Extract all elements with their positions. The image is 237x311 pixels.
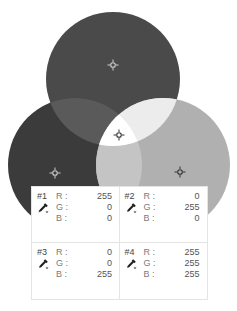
sample-number: #3: [37, 247, 47, 257]
b-label: B :: [144, 269, 155, 280]
r-label: R :: [144, 191, 156, 202]
r-value: 255: [97, 191, 112, 202]
g-value: 255: [184, 202, 199, 213]
g-label: G :: [144, 202, 156, 213]
sample-number: #1: [37, 191, 47, 201]
color-sampler-4-icon[interactable]: [174, 166, 186, 178]
eyedropper-icon[interactable]: [37, 202, 49, 214]
g-label: G :: [56, 202, 68, 213]
color-sampler-2-icon[interactable]: [113, 129, 125, 141]
b-value: 255: [97, 269, 112, 280]
info-panel: #1 R :255 G :0 B :0 #2 R :0 G :255 B :0 …: [31, 186, 208, 300]
b-label: B :: [56, 213, 67, 224]
r-label: R :: [56, 247, 68, 258]
g-value: 0: [107, 202, 112, 213]
r-label: R :: [56, 191, 68, 202]
eyedropper-icon[interactable]: [125, 202, 137, 214]
b-label: B :: [144, 213, 155, 224]
r-value: 0: [107, 247, 112, 258]
g-value: 255: [184, 258, 199, 269]
b-value: 0: [107, 213, 112, 224]
b-value: 0: [194, 213, 199, 224]
color-sampler-3-icon[interactable]: [49, 167, 61, 179]
b-label: B :: [56, 269, 67, 280]
g-value: 0: [107, 258, 112, 269]
color-sampler-1-icon[interactable]: [107, 59, 119, 71]
sample-cell-3[interactable]: #3 R :0 G :0 B :255: [32, 243, 120, 299]
r-label: R :: [144, 247, 156, 258]
g-label: G :: [144, 258, 156, 269]
r-value: 255: [184, 247, 199, 258]
g-label: G :: [56, 258, 68, 269]
sample-number: #4: [125, 247, 135, 257]
eyedropper-icon[interactable]: [37, 258, 49, 270]
sample-cell-2[interactable]: #2 R :0 G :255 B :0: [120, 187, 208, 243]
sample-number: #2: [125, 191, 135, 201]
sample-cell-1[interactable]: #1 R :255 G :0 B :0: [32, 187, 120, 243]
sample-cell-4[interactable]: #4 R :255 G :255 B :255: [120, 243, 208, 299]
eyedropper-icon[interactable]: [125, 258, 137, 270]
r-value: 0: [194, 191, 199, 202]
b-value: 255: [184, 269, 199, 280]
